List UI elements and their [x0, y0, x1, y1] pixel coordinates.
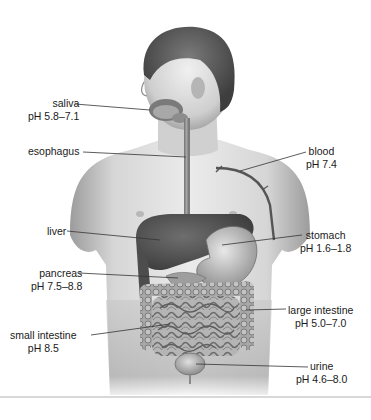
label-esophagus: esophagus	[28, 145, 79, 158]
label-ph: pH 1.6–1.8	[300, 242, 351, 255]
label-pancreas: pancreas pH 7.5–8.8	[31, 267, 82, 293]
label-stomach: stomach pH 1.6–1.8	[300, 229, 351, 255]
label-name: saliva	[28, 97, 79, 110]
label-small-intestine: small intestine pH 8.5	[10, 329, 77, 355]
bottom-divider	[0, 396, 371, 398]
label-ph: pH 8.5	[10, 342, 77, 355]
label-name: large intestine	[288, 304, 353, 317]
label-urine: urine pH 4.6–8.0	[296, 360, 347, 386]
label-blood: blood pH 7.4	[306, 145, 337, 171]
label-name: pancreas	[31, 267, 82, 280]
label-ph: pH 5.0–7.0	[288, 317, 353, 330]
label-ph: pH 7.4	[306, 158, 337, 171]
label-name: esophagus	[28, 145, 79, 158]
label-saliva: saliva pH 5.8–7.1	[28, 97, 79, 123]
label-name: stomach	[300, 229, 351, 242]
head	[142, 27, 235, 130]
label-name: blood	[306, 145, 337, 158]
label-ph: pH 5.8–7.1	[28, 110, 79, 123]
anatomy-figure: saliva pH 5.8–7.1 esophagus blood pH 7.4…	[0, 0, 371, 420]
label-name: liver	[47, 225, 66, 238]
label-ph: pH 7.5–8.8	[31, 280, 82, 293]
label-large-intestine: large intestine pH 5.0–7.0	[288, 304, 353, 330]
label-liver: liver	[47, 225, 66, 238]
label-ph: pH 4.6–8.0	[296, 373, 347, 386]
label-name: small intestine	[10, 329, 77, 342]
label-name: urine	[296, 360, 347, 373]
human-body-illustration	[0, 0, 371, 420]
